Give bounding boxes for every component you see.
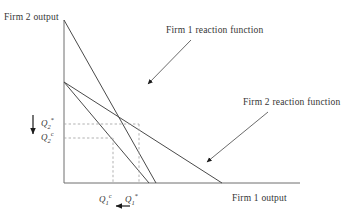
firm1-annotation-arrow	[148, 40, 191, 84]
firm1-reaction-function-label: Firm 1 reaction function	[166, 25, 263, 35]
tick-q1-c-sup: c	[109, 192, 112, 199]
y-axis-label: Firm 2 output	[4, 12, 59, 22]
tick-label-q2-c: Q2c	[41, 130, 54, 144]
firm2-reaction-line	[64, 82, 222, 183]
firm2-reaction-function-label: Firm 2 reaction function	[243, 97, 340, 107]
tick-q1-star-sub: 1	[132, 199, 135, 206]
tick-label-q2-star: Q2*	[41, 116, 54, 130]
tick-q2-star-sup: *	[51, 116, 54, 123]
firm1-reaction-line	[64, 20, 156, 183]
tick-label-q1-c: Q1c	[99, 192, 112, 206]
tick-label-q1-star: Q1*	[125, 192, 138, 206]
tick-q2-c-sub: 2	[48, 137, 51, 144]
tick-q2-star-sub: 2	[48, 123, 51, 130]
tick-q1-star-sup: *	[135, 192, 138, 199]
tick-q2-c-sup: c	[51, 130, 54, 137]
tick-q1-c-sub: 1	[106, 199, 109, 206]
cournot-reaction-function-figure: Firm 2 output Firm 1 output Firm 1 react…	[0, 0, 358, 222]
reaction-curves	[64, 20, 222, 183]
x-axis-label: Firm 1 output	[232, 193, 287, 203]
firm1-reaction-line-shifted	[64, 82, 149, 183]
firm2-annotation-arrow	[207, 112, 268, 162]
